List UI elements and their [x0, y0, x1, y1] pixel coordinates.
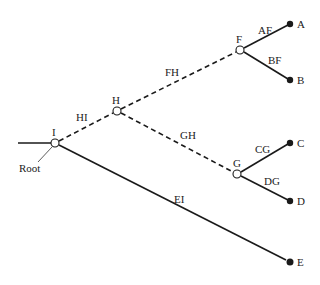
label-node-G: G [233, 157, 241, 169]
label-node-I: I [52, 126, 56, 138]
label-node-F: F [236, 33, 242, 45]
leaf-B [287, 77, 293, 83]
edge-FH [121, 52, 236, 109]
leaf-A [287, 21, 293, 27]
node-H [113, 107, 121, 115]
root-pointer-line [38, 147, 52, 162]
label-edge-AF: AF [258, 24, 272, 36]
label-edge-EI: EI [174, 193, 185, 205]
label-leaf-E: E [297, 256, 304, 268]
leaf-D [287, 198, 293, 204]
leaf-E [287, 259, 294, 266]
label-edge-HI: HI [76, 111, 88, 123]
edge-EI [59, 145, 286, 260]
label-edge-CG: CG [255, 143, 270, 155]
label-root: Root [19, 162, 40, 174]
label-leaf-A: A [297, 18, 305, 30]
label-edge-GH: GH [180, 129, 196, 141]
tree-diagram: I H F G A B C D E Root HI FH GH AF BF CG… [0, 0, 320, 285]
node-G [233, 170, 241, 178]
node-F [236, 46, 244, 54]
label-edge-BF: BF [268, 54, 281, 66]
label-leaf-D: D [297, 195, 305, 207]
label-node-H: H [112, 94, 120, 106]
node-I [51, 139, 59, 147]
leaf-C [287, 140, 293, 146]
edge-GH [121, 113, 233, 172]
label-edge-FH: FH [165, 66, 179, 78]
label-edge-DG: DG [264, 175, 280, 187]
label-leaf-C: C [297, 137, 304, 149]
label-leaf-B: B [297, 74, 304, 86]
